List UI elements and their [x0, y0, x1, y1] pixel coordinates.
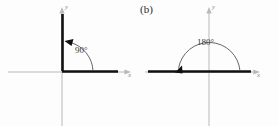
- x-axis-label: x: [127, 71, 132, 79]
- panel-b: (b) x y 180°: [139, 0, 278, 126]
- angle-measure-label-a: 90°: [75, 46, 88, 55]
- angle-measure-label-b: 180°: [197, 38, 214, 47]
- y-axis-arrowhead: [206, 7, 211, 14]
- y-axis-label: y: [64, 3, 69, 11]
- y-axis-label: y: [211, 3, 216, 11]
- angle-diagram-figure: ) x y 90° (b): [0, 0, 278, 126]
- x-axis-label: x: [256, 71, 261, 79]
- rotation-arrowhead: [65, 39, 74, 46]
- panel-a-plot: x y: [0, 0, 139, 126]
- panel-b-plot: x y: [139, 0, 278, 126]
- panel-a: ) x y 90°: [0, 0, 139, 126]
- y-axis-arrowhead: [59, 7, 64, 14]
